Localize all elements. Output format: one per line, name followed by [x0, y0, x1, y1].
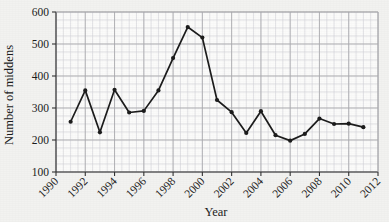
data-point	[259, 109, 263, 113]
data-point	[156, 88, 160, 92]
data-point	[303, 132, 307, 136]
data-point	[230, 110, 234, 114]
y-axis-label: Number of middens	[2, 45, 16, 145]
line-chart: 100200300400500600 199019921994199619982…	[0, 0, 389, 222]
y-tick-label: 300	[32, 102, 50, 114]
x-axis-label: Year	[204, 205, 228, 219]
y-tick-label: 100	[32, 166, 50, 178]
data-point	[244, 131, 248, 135]
data-point	[171, 56, 175, 60]
data-point	[69, 120, 73, 124]
data-point	[83, 88, 87, 92]
y-tick-label: 400	[32, 70, 50, 82]
data-point	[200, 36, 204, 40]
data-point	[347, 122, 351, 126]
minor-gridlines	[56, 12, 378, 172]
chart-container: 100200300400500600 199019921994199619982…	[0, 0, 389, 222]
y-tick-label: 200	[32, 134, 50, 146]
data-point	[288, 139, 292, 143]
data-point	[317, 116, 321, 120]
data-point	[142, 109, 146, 113]
data-point	[273, 133, 277, 137]
data-point	[127, 110, 131, 114]
data-point	[215, 98, 219, 102]
data-point	[186, 25, 190, 29]
data-point	[361, 125, 365, 129]
data-point	[98, 130, 102, 134]
data-point	[112, 88, 116, 92]
y-tick-label: 500	[32, 38, 50, 50]
y-tick-label: 600	[32, 6, 50, 18]
data-point	[332, 122, 336, 126]
